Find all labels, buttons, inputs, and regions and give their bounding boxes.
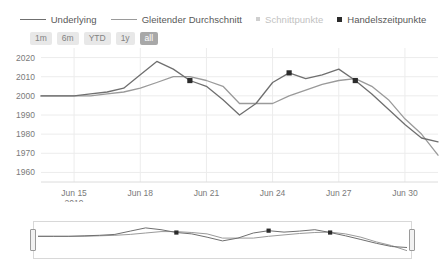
trade-point-marker[interactable] <box>187 78 192 83</box>
legend-item-moving-average[interactable]: Gleitender Durchschnitt <box>111 14 242 25</box>
legend-item-underlying[interactable]: Underlying <box>20 14 97 25</box>
x-axis-tick-label: Jun 24 <box>260 188 286 198</box>
line-swatch-icon <box>111 19 137 20</box>
y-axis-tick-label: 1970 <box>16 148 35 158</box>
navigator-trade-marker <box>174 230 178 234</box>
line-swatch-icon <box>20 19 46 20</box>
stock-chart-widget: Underlying Gleitender Durchschnitt Schni… <box>0 0 446 271</box>
square-swatch-icon <box>337 17 342 22</box>
legend-label-intersections: Schnittpunkte <box>265 14 323 25</box>
range-navigator[interactable] <box>33 221 412 259</box>
series-line-moving-average <box>41 77 438 156</box>
legend-item-trade-points[interactable]: Handelszeitpunkte <box>337 14 426 25</box>
series-line-underlying <box>41 61 438 141</box>
chart-legend: Underlying Gleitender Durchschnitt Schni… <box>0 11 446 27</box>
x-axis-tick-label: Jun 21 <box>194 188 220 198</box>
navigator-right-handle[interactable] <box>409 229 415 251</box>
x-axis-year-label: 2019 <box>65 198 84 202</box>
legend-item-intersections[interactable]: Schnittpunkte <box>256 14 323 25</box>
main-chart[interactable]: 1960197019801990200020102020Jun 152019Ju… <box>0 42 446 202</box>
navigator-trade-marker <box>267 229 271 233</box>
navigator-chart-svg <box>34 222 411 258</box>
legend-label-underlying: Underlying <box>51 14 97 25</box>
legend-label-trade-points: Handelszeitpunkte <box>347 14 426 25</box>
x-axis-tick-label: Jun 30 <box>392 188 418 198</box>
trade-point-marker[interactable] <box>287 70 292 75</box>
y-axis-tick-label: 2010 <box>16 72 35 82</box>
x-axis-tick-label: Jun 27 <box>326 188 352 198</box>
y-axis-tick-label: 2000 <box>16 91 35 101</box>
navigator-left-handle[interactable] <box>30 229 36 251</box>
x-axis-tick-label: Jun 15 <box>61 188 87 198</box>
legend-label-moving-average: Gleitender Durchschnitt <box>142 14 242 25</box>
main-chart-svg: 1960197019801990200020102020Jun 152019Ju… <box>0 42 446 202</box>
dot-swatch-icon <box>256 17 260 21</box>
navigator-trade-marker <box>328 230 332 234</box>
y-axis-tick-label: 1990 <box>16 110 35 120</box>
y-axis-tick-label: 2020 <box>16 53 35 63</box>
navigator-frame <box>33 221 412 259</box>
y-axis-tick-label: 1980 <box>16 129 35 139</box>
x-axis-tick-label: Jun 18 <box>127 188 153 198</box>
trade-point-marker[interactable] <box>353 78 358 83</box>
y-axis-tick-label: 1960 <box>16 167 35 177</box>
